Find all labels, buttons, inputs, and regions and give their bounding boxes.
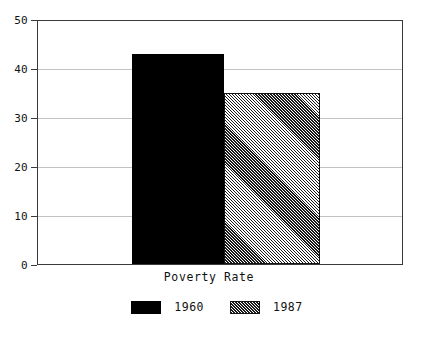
y-axis-label-50: 50 bbox=[0, 15, 28, 26]
legend-item-1960: 1960 bbox=[131, 300, 204, 314]
y-axis-label-10: 10 bbox=[0, 211, 28, 222]
legend-item-1987: 1987 bbox=[230, 300, 303, 314]
legend-label-1987: 1987 bbox=[273, 300, 303, 314]
bar-1987 bbox=[224, 93, 320, 264]
y-axis-label-30: 30 bbox=[0, 113, 28, 124]
legend-swatch-1960-icon bbox=[131, 301, 161, 314]
y-axis-label-40: 40 bbox=[0, 64, 28, 75]
y-axis-tick-0 bbox=[31, 265, 37, 266]
y-axis-label-20: 20 bbox=[0, 162, 28, 173]
x-axis-category-label: Poverty Rate bbox=[0, 270, 434, 284]
legend-label-1960: 1960 bbox=[174, 300, 204, 314]
bar-1960 bbox=[132, 54, 224, 264]
bar-chart: 50 40 30 20 10 0 Poverty Rate 1960 1987 bbox=[0, 0, 434, 338]
legend: 1960 1987 bbox=[0, 300, 434, 314]
x-axis-category-label-text: Poverty Rate bbox=[164, 270, 254, 284]
legend-swatch-1987-icon bbox=[230, 301, 260, 314]
plot-area bbox=[37, 20, 403, 265]
